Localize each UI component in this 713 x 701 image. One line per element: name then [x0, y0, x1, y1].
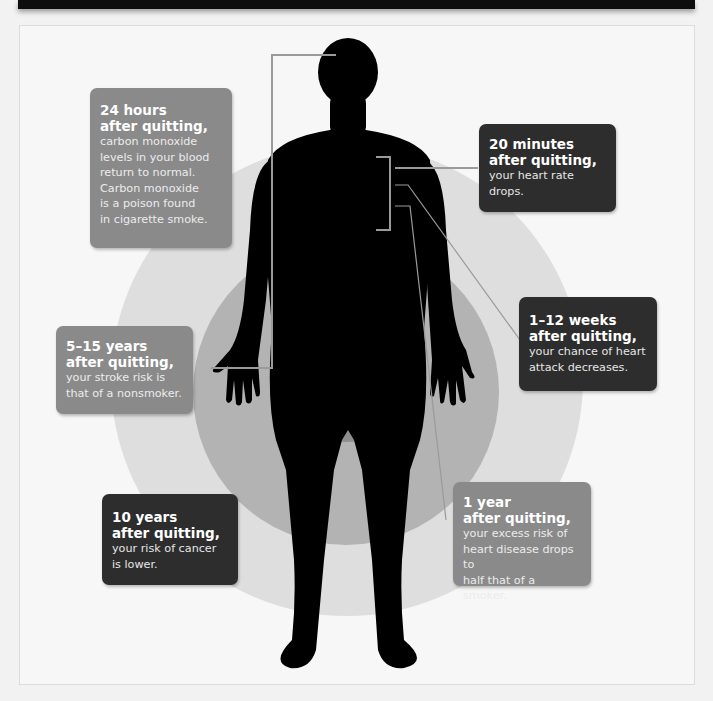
callout-subtitle: after quitting,: [100, 118, 222, 134]
callout-body-line: return to normal.: [100, 165, 222, 181]
callout-24-hours: 24 hours after quitting, carbon monoxide…: [90, 88, 232, 248]
callout-subtitle: after quitting,: [529, 328, 647, 344]
callout-title: 5–15 years: [66, 338, 183, 354]
callout-title: 24 hours: [100, 102, 222, 118]
callout-20-minutes: 20 minutes after quitting, your heart ra…: [479, 124, 616, 212]
callout-body-line: heart disease drops to: [463, 542, 581, 573]
callout-body-line: is lower.: [112, 557, 228, 573]
callout-body-line: your stroke risk is: [66, 370, 183, 386]
callout-body-line: levels in your blood: [100, 150, 222, 166]
callout-subtitle: after quitting,: [463, 510, 581, 526]
callout-title: 1–12 weeks: [529, 312, 647, 328]
callout-body-line: Carbon monoxide: [100, 181, 222, 197]
callout-body-line: your chance of heart: [529, 344, 647, 360]
callout-1-year: 1 year after quitting, your excess risk …: [453, 482, 591, 586]
callout-subtitle: after quitting,: [489, 152, 606, 168]
callout-subtitle: after quitting,: [66, 354, 183, 370]
callout-title: 20 minutes: [489, 136, 606, 152]
callout-title: 10 years: [112, 509, 228, 525]
callout-body-line: that of a nonsmoker.: [66, 386, 183, 402]
callout-subtitle: after quitting,: [112, 525, 228, 541]
callout-5-15-years: 5–15 years after quitting, your stroke r…: [56, 326, 193, 414]
callout-body-line: half that of a smoker.: [463, 573, 581, 604]
callout-body-line: your excess risk of: [463, 526, 581, 542]
callout-body-line: is a poison found: [100, 196, 222, 212]
callout-1-12-weeks: 1–12 weeks after quitting, your chance o…: [519, 297, 657, 391]
callout-body-line: your heart rate: [489, 168, 606, 184]
callout-body-line: your risk of cancer: [112, 541, 228, 557]
callout-body-line: in cigarette smoke.: [100, 212, 222, 228]
callout-title: 1 year: [463, 494, 581, 510]
callout-body-line: drops.: [489, 184, 606, 200]
callout-body-line: attack decreases.: [529, 360, 647, 376]
callout-10-years: 10 years after quitting, your risk of ca…: [102, 494, 238, 585]
callout-body-line: carbon monoxide: [100, 134, 222, 150]
